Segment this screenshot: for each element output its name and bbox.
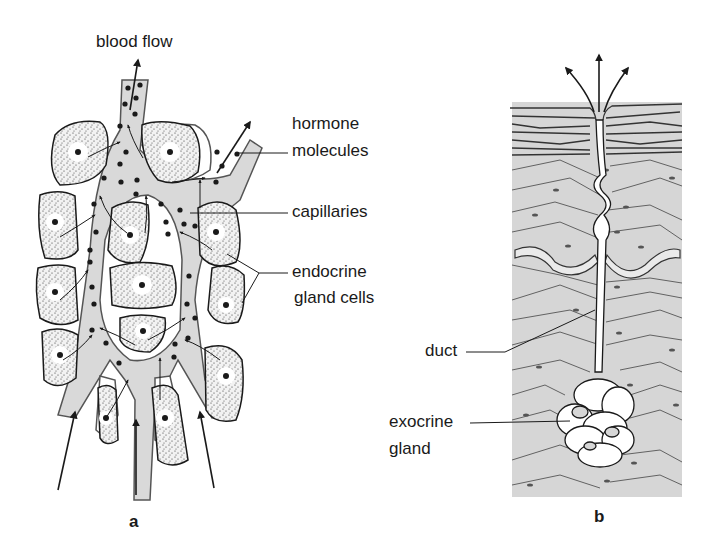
label-gland: gland <box>389 439 431 459</box>
label-duct: duct <box>425 341 457 361</box>
panel-a-endocrine <box>36 60 288 500</box>
panel-letter-a: a <box>129 512 138 532</box>
label-gland-cells: gland cells <box>294 288 374 308</box>
label-capillaries: capillaries <box>292 202 368 222</box>
label-blood-flow: blood flow <box>96 32 173 52</box>
inflow-arrow-right <box>200 412 214 488</box>
label-molecules: molecules <box>292 141 369 161</box>
label-hormone: hormone <box>292 114 359 134</box>
panel-b-exocrine <box>466 55 682 497</box>
panel-letter-b: b <box>594 507 604 527</box>
inflow-arrow-left <box>58 412 75 490</box>
label-exocrine: exocrine <box>389 412 453 432</box>
label-endocrine: endocrine <box>292 262 367 282</box>
